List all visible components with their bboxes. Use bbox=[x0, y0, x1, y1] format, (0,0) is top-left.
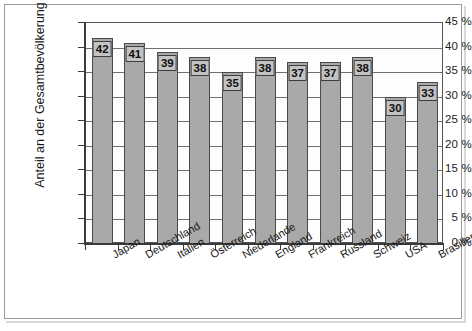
y-axis-tick-label: 35 % bbox=[398, 65, 472, 77]
bar[interactable]: 37 bbox=[320, 62, 341, 244]
y-axis-tick bbox=[78, 71, 84, 72]
bar[interactable]: 41 bbox=[124, 43, 145, 244]
bar-value-label: 39 bbox=[158, 55, 177, 71]
bar[interactable]: 35 bbox=[222, 72, 243, 244]
chart-figure: Anteil an der Gesamtbevölkerung 42413938… bbox=[0, 0, 472, 331]
y-axis-tick bbox=[78, 194, 84, 195]
y-axis-tick bbox=[78, 169, 84, 170]
y-axis-tick bbox=[78, 145, 84, 146]
y-axis-tick bbox=[78, 243, 84, 244]
bar-value-label: 38 bbox=[191, 60, 210, 76]
y-axis-tick-label: 25 % bbox=[398, 114, 472, 126]
bar[interactable]: 38 bbox=[255, 57, 276, 244]
bar-value-label: 38 bbox=[256, 60, 275, 76]
plot-area: 4241393835383737383033 bbox=[85, 22, 443, 243]
y-axis-tick bbox=[78, 120, 84, 121]
y-axis-tick-label: 5 % bbox=[398, 212, 472, 224]
y-axis-tick-label: 40 % bbox=[398, 41, 472, 53]
y-axis-tick bbox=[78, 47, 84, 48]
bar[interactable]: 42 bbox=[92, 38, 113, 244]
y-axis-line bbox=[84, 22, 86, 244]
bar[interactable]: 38 bbox=[352, 57, 373, 244]
bar[interactable]: 37 bbox=[287, 62, 308, 244]
y-axis-tick bbox=[78, 218, 84, 219]
y-axis-tick-label: 45 % bbox=[398, 16, 472, 28]
bar-value-label: 37 bbox=[288, 65, 307, 81]
bar-value-label: 38 bbox=[353, 60, 372, 76]
bar-value-label: 42 bbox=[93, 41, 112, 57]
y-axis-tick bbox=[78, 22, 84, 23]
bar-value-label: 35 bbox=[223, 75, 242, 91]
bar-value-label: 41 bbox=[125, 46, 144, 62]
y-axis-tick bbox=[78, 96, 84, 97]
y-axis-tick-label: 30 % bbox=[398, 90, 472, 102]
y-axis-tick-label: 20 % bbox=[398, 139, 472, 151]
bar-value-label: 37 bbox=[321, 65, 340, 81]
bar[interactable]: 39 bbox=[157, 52, 178, 244]
x-axis-tick bbox=[85, 244, 86, 250]
bar[interactable]: 38 bbox=[189, 57, 210, 244]
y-axis-title: Anteil an der Gesamtbevölkerung bbox=[33, 0, 47, 205]
y-axis-tick-label: 15 % bbox=[398, 163, 472, 175]
y-axis-tick-label: 10 % bbox=[398, 188, 472, 200]
